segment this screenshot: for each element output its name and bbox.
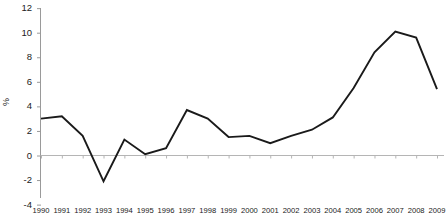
line-chart: % -4-2024681012 199019911992199319941995… [0,0,446,222]
y-axis [37,8,41,205]
data-series-line [41,31,437,181]
plot-area [0,0,446,222]
x-axis [41,156,445,159]
